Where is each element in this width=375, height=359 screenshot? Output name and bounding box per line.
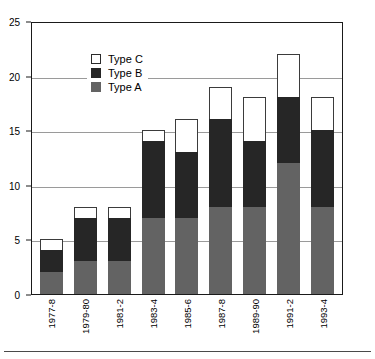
- bar-segment-type-c: [311, 97, 334, 130]
- bar-group-1979-80: [74, 207, 97, 294]
- x-axis-tick-label: 1983-4: [148, 299, 159, 329]
- legend-swatch-type-a-icon: [91, 82, 101, 92]
- bar-segment-type-b: [311, 130, 334, 206]
- y-axis-tick-label: 10: [9, 180, 20, 191]
- bar-segment-type-c: [277, 54, 300, 98]
- bar-segment-type-a: [277, 163, 300, 294]
- bar-segment-type-c: [175, 119, 198, 152]
- y-axis: 25 20 15 10 5 0: [0, 22, 26, 295]
- stacked-bar-chart-figure: 25 20 15 10 5 0: [0, 0, 375, 359]
- x-axis-tick: 1979-80: [74, 297, 97, 347]
- bar-group-1983-4: [142, 130, 165, 294]
- legend-label-type-c: Type C: [108, 53, 143, 65]
- y-axis-tick-label: 0: [14, 290, 20, 301]
- bar-group-1981-2: [108, 207, 131, 294]
- y-axis-tick-label: 25: [9, 17, 20, 28]
- bar-segment-type-b: [243, 141, 266, 207]
- x-axis-tick: 1989-90: [244, 297, 267, 347]
- bar-segment-type-a: [243, 207, 266, 294]
- x-axis: 1977-8 1979-80 1981-2 1983-4 1985-6 1987…: [31, 297, 343, 347]
- bar-group-1985-6: [175, 119, 198, 294]
- x-axis-tick: 1991-2: [278, 297, 301, 347]
- bar-segment-type-b: [277, 97, 300, 163]
- bar-segment-type-b: [108, 218, 131, 262]
- legend-swatch-type-b-icon: [91, 68, 101, 78]
- bar-segment-type-b: [40, 250, 63, 272]
- bar-segment-type-a: [175, 218, 198, 294]
- bar-segment-type-b: [209, 119, 232, 206]
- x-axis-tick: 1985-6: [176, 297, 199, 347]
- bar-segment-type-b: [142, 141, 165, 217]
- bar-group-1977-8: [40, 239, 63, 294]
- bar-segment-type-a: [40, 272, 63, 294]
- bar-segment-type-b: [175, 152, 198, 218]
- bar-segment-type-a: [311, 207, 334, 294]
- x-axis-tick: 1983-4: [142, 297, 165, 347]
- y-axis-tick-label: 20: [9, 71, 20, 82]
- x-axis-tick: 1993-4: [312, 297, 335, 347]
- bar-segment-type-c: [74, 207, 97, 218]
- bar-segment-type-c: [243, 97, 266, 141]
- x-axis-tick-label: 1985-6: [182, 299, 193, 329]
- y-axis-tick-label: 15: [9, 126, 20, 137]
- bar-segment-type-c: [209, 87, 232, 120]
- legend-item-type-c: Type C: [91, 52, 143, 66]
- bar-group-1993-4: [311, 97, 334, 294]
- x-axis-tick: 1981-2: [108, 297, 131, 347]
- bar-group-1991-2: [277, 54, 300, 294]
- x-axis-tick-label: 1993-4: [318, 299, 329, 329]
- x-axis-tick-label: 1981-2: [114, 299, 125, 329]
- bar-segment-type-b: [74, 218, 97, 262]
- bar-segment-type-a: [108, 261, 131, 294]
- x-axis-tick-label: 1979-80: [80, 299, 91, 334]
- x-axis-tick: 1977-8: [40, 297, 63, 347]
- bar-segment-type-a: [142, 218, 165, 294]
- legend-item-type-b: Type B: [91, 66, 143, 80]
- bar-group-1987-8: [209, 87, 232, 294]
- bar-segment-type-c: [142, 130, 165, 141]
- legend-item-type-a: Type A: [91, 80, 143, 94]
- x-axis-tick-label: 1977-8: [46, 299, 57, 329]
- bar-segment-type-a: [74, 261, 97, 294]
- x-axis-tick-label: 1989-90: [250, 299, 261, 334]
- x-axis-tick: 1987-8: [210, 297, 233, 347]
- x-axis-tick-label: 1987-8: [216, 299, 227, 329]
- legend-label-type-b: Type B: [108, 67, 142, 79]
- bottom-divider: [4, 351, 371, 352]
- x-axis-tick-label: 1991-2: [284, 299, 295, 329]
- chart-legend: Type C Type B Type A: [87, 49, 148, 97]
- bars-container: [32, 23, 342, 294]
- bar-segment-type-c: [108, 207, 131, 218]
- y-axis-tick-label: 5: [14, 235, 20, 246]
- legend-swatch-type-c-icon: [91, 54, 101, 64]
- bar-segment-type-a: [209, 207, 232, 294]
- bar-segment-type-c: [40, 239, 63, 250]
- plot-area: Type C Type B Type A: [31, 22, 343, 295]
- legend-label-type-a: Type A: [108, 81, 142, 93]
- bar-group-1989-90: [243, 97, 266, 294]
